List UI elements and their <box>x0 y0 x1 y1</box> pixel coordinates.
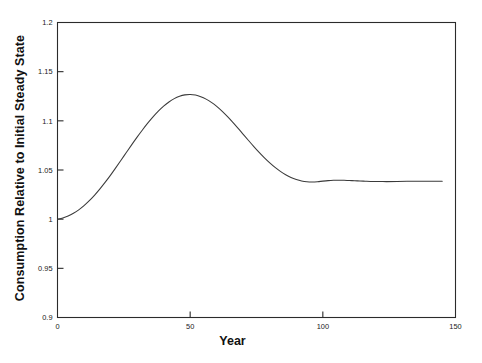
chart-figure: Consumption Relative to Initial Steady S… <box>0 0 482 363</box>
y-tick-label: 1.05 <box>38 166 52 175</box>
y-tick-label: 0.95 <box>38 264 52 273</box>
x-tick-label: 50 <box>186 322 194 331</box>
x-tick-label: 150 <box>449 322 461 331</box>
y-tick-label: 1.15 <box>38 67 52 76</box>
y-tick-label: 1.1 <box>42 117 52 126</box>
x-tick-label: 0 <box>55 322 59 331</box>
y-axis-title-container: Consumption Relative to Initial Steady S… <box>8 0 32 335</box>
y-tick-label: 0.9 <box>42 313 52 322</box>
y-tick-label: 1.2 <box>42 18 52 27</box>
y-axis-title: Consumption Relative to Initial Steady S… <box>13 34 27 300</box>
x-axis-title: Year <box>0 334 465 348</box>
plot-area: 0.90.9511.051.11.151.2 050100150 <box>0 0 482 363</box>
x-tick-label: 100 <box>317 322 329 331</box>
y-tick-label: 1 <box>48 215 52 224</box>
